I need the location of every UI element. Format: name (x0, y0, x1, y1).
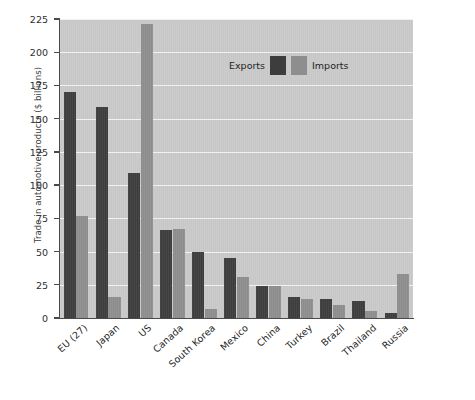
bar-exports (352, 301, 364, 318)
x-tick-label: Thailand (340, 322, 378, 358)
y-tick-mark (54, 52, 59, 53)
bar-imports (108, 297, 120, 318)
bar-imports (76, 216, 88, 318)
y-tick-label: 25 (36, 279, 48, 290)
x-tick-label: Japan (94, 322, 121, 348)
y-tick-mark (54, 218, 59, 219)
y-tick-label: 175 (30, 80, 48, 91)
gridline (60, 19, 413, 20)
legend-swatch-exports (270, 56, 286, 75)
legend-swatch-imports (291, 56, 307, 75)
y-axis-line (59, 18, 60, 319)
y-tick-label: 100 (30, 180, 48, 191)
bar-exports (160, 230, 172, 318)
bar-imports (333, 305, 345, 318)
x-tick-label: Brazil (319, 322, 347, 348)
bar-imports (365, 311, 377, 318)
chart-legend: ExportsImports (229, 56, 349, 75)
x-tick-label: US (136, 322, 153, 339)
x-tick-label: Mexico (217, 322, 249, 353)
gridline (60, 185, 413, 186)
bar-exports (288, 297, 300, 318)
gridline (60, 218, 413, 219)
bar-exports (256, 286, 268, 318)
bar-exports (224, 258, 236, 318)
bar-imports (397, 274, 409, 318)
bar-imports (237, 277, 249, 318)
gridline (60, 252, 413, 253)
x-tick-label: Russia (380, 322, 411, 351)
bar-imports (141, 24, 153, 318)
y-tick-label: 225 (30, 14, 48, 25)
bar-imports (269, 286, 281, 318)
bar-exports (192, 252, 204, 318)
y-tick-label: 200 (30, 47, 48, 58)
y-tick-mark (54, 85, 59, 86)
legend-label-exports: Exports (229, 61, 265, 71)
y-tick-label: 50 (36, 246, 48, 257)
y-tick-label: 75 (36, 213, 48, 224)
y-tick-mark (54, 184, 59, 185)
x-tick-label: China (254, 322, 282, 349)
bar-exports (128, 173, 140, 318)
y-tick-mark (54, 251, 59, 252)
y-tick-mark (54, 317, 59, 318)
y-tick-mark (54, 151, 59, 152)
bar-chart: Trade in automotive products ($ billions… (0, 0, 475, 400)
x-tick-label: EU (27) (55, 322, 89, 354)
gridline (60, 119, 413, 120)
y-tick-label: 125 (30, 146, 48, 157)
bar-exports (96, 107, 108, 318)
y-tick-mark (54, 118, 59, 119)
bar-exports (320, 299, 332, 318)
x-tick-label: Turkey (283, 322, 314, 351)
y-tick-mark (54, 284, 59, 285)
legend-label-imports: Imports (312, 61, 348, 71)
bar-exports (64, 92, 76, 318)
y-tick-mark (54, 18, 59, 19)
gridline (60, 152, 413, 153)
y-tick-label: 0 (42, 313, 48, 324)
y-tick-label: 150 (30, 113, 48, 124)
bar-imports (301, 299, 313, 318)
bar-imports (173, 229, 185, 318)
bar-imports (205, 309, 217, 318)
x-axis-line (59, 318, 414, 319)
gridline (60, 52, 413, 53)
gridline (60, 85, 413, 86)
